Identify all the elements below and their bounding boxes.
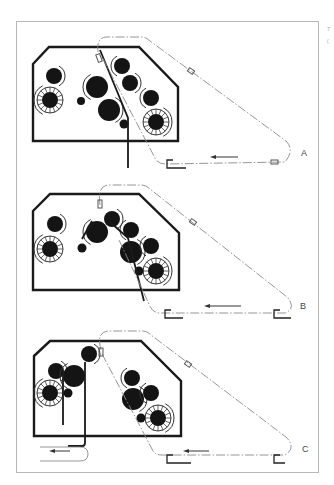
corner-mark-1: 7: [327, 26, 330, 32]
roller: [81, 346, 97, 362]
sprocket-tooth: [164, 424, 168, 428]
sprocket-tooth: [53, 237, 55, 242]
panel-b: B: [33, 185, 306, 318]
roller: [122, 75, 138, 91]
leader-loop-a: [98, 37, 291, 164]
sprocket-tooth: [151, 259, 153, 264]
roller-group-a: [34, 56, 172, 136]
sprocket-tooth: [144, 117, 149, 119]
sprocket-tooth: [41, 255, 45, 259]
roller: [98, 99, 120, 121]
sprocket-tooth: [56, 240, 60, 244]
panel-label-a: A: [301, 148, 307, 158]
sprocket-tooth: [144, 274, 149, 276]
sprocket-tooth: [164, 409, 168, 413]
sprocket-tooth: [151, 278, 153, 283]
roller: [78, 244, 87, 253]
roller: [64, 389, 73, 398]
panel-label-c: C: [302, 444, 309, 454]
sprocket-tooth: [146, 421, 151, 423]
panel-a: A: [33, 37, 307, 168]
sprocket-tooth: [38, 252, 43, 254]
sprocket-tooth: [146, 413, 151, 415]
sprocket-tooth: [161, 406, 163, 411]
arrowhead-c: [183, 449, 189, 453]
sprocket-tooth: [41, 240, 45, 244]
film-guide-bracket-c1: [167, 455, 191, 463]
film-guide-bracket-c2: [274, 455, 285, 463]
splice-clip-b2: [189, 219, 196, 226]
sprocket-tooth: [41, 399, 45, 403]
sprocket-tooth: [147, 113, 151, 117]
roller: [48, 363, 64, 379]
sprocket-tooth: [53, 107, 55, 112]
exit-loop-c: [40, 447, 88, 461]
roller: [143, 90, 159, 106]
film-guide-bracket-b1: [165, 310, 183, 318]
sprocket-tooth: [57, 388, 62, 390]
corner-mark-2: (: [327, 38, 329, 44]
splice-clip-c2: [184, 361, 191, 368]
roller: [143, 385, 159, 401]
sprocket-tooth: [45, 256, 47, 261]
sprocket-tooth: [151, 110, 153, 115]
sprocket-tooth: [159, 129, 161, 134]
roller-group-b: [34, 209, 172, 285]
sprocket-tooth: [45, 381, 47, 386]
sprocket-tooth: [38, 95, 43, 97]
sprocket-tooth: [163, 117, 168, 119]
sprocket-tooth: [153, 406, 155, 411]
sprocket-tooth: [147, 277, 151, 281]
sprocket-tooth: [162, 113, 166, 117]
sprocket-tooth: [147, 262, 151, 266]
sprocket-tooth: [162, 262, 166, 266]
sprocket-tooth: [144, 266, 149, 268]
panel-c: C: [34, 331, 309, 463]
roller: [63, 365, 85, 387]
sprocket-tooth: [162, 128, 166, 132]
sprocket-tooth: [163, 274, 168, 276]
sprocket-tooth: [41, 91, 45, 95]
sprocket-tooth: [162, 277, 166, 281]
roller: [114, 58, 130, 74]
sprocket-tooth: [38, 388, 43, 390]
sprocket-tooth: [45, 88, 47, 93]
sprocket-tooth: [45, 400, 47, 405]
sprocket-tooth: [45, 107, 47, 112]
sprocket-tooth: [53, 256, 55, 261]
sprocket-tooth: [53, 400, 55, 405]
sprocket-tooth: [53, 381, 55, 386]
sprocket-tooth: [56, 384, 60, 388]
sprocket-tooth: [153, 425, 155, 430]
sprocket-roller: [42, 385, 58, 401]
sprocket-tooth: [57, 244, 62, 246]
sprocket-tooth: [56, 399, 60, 403]
sprocket-tooth: [38, 396, 43, 398]
roller: [46, 68, 62, 84]
sprocket-tooth: [165, 413, 170, 415]
roller: [124, 370, 140, 386]
sprocket-tooth: [144, 125, 149, 127]
sprocket-tooth: [149, 409, 153, 413]
splice-clip-a2: [187, 68, 194, 75]
sprocket-tooth: [147, 128, 151, 132]
sprocket-roller: [148, 114, 164, 130]
sprocket-roller: [150, 410, 166, 426]
sprocket-tooth: [165, 421, 170, 423]
sprocket-tooth: [45, 237, 47, 242]
sprocket-tooth: [56, 106, 60, 110]
sprocket-tooth: [163, 266, 168, 268]
sprocket-tooth: [38, 103, 43, 105]
exit-arrowhead-c: [49, 449, 55, 453]
sprocket-tooth: [57, 396, 62, 398]
sprocket-tooth: [56, 255, 60, 259]
sprocket-tooth: [57, 95, 62, 97]
panel-label-b: B: [300, 301, 306, 311]
sprocket-roller: [42, 241, 58, 257]
sprocket-tooth: [159, 259, 161, 264]
sprocket-tooth: [159, 110, 161, 115]
sprocket-tooth: [53, 88, 55, 93]
film-threading-diagram: 7 ( A B: [0, 0, 334, 485]
sprocket-tooth: [56, 91, 60, 95]
roller: [47, 216, 63, 232]
